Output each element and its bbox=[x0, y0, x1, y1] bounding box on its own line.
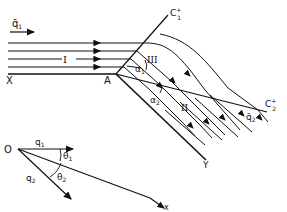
point-a-label: A bbox=[104, 75, 111, 86]
c2-label: C+2 bbox=[265, 97, 276, 112]
expansion-fan-diagram: q̄1 I X A III II Y C+1 C+2 α1 α2 q̄2 O q… bbox=[0, 0, 287, 212]
c2-characteristic-line bbox=[116, 74, 267, 112]
theta1-label: θ1 bbox=[63, 151, 73, 162]
q2-bar-label: q̄2 bbox=[246, 112, 256, 123]
c1-label: C+1 bbox=[170, 6, 181, 21]
region-3-label: III bbox=[147, 55, 158, 65]
q2-vector-label: q2 bbox=[26, 173, 36, 184]
c1-characteristic-line bbox=[116, 15, 168, 74]
point-x-label: X bbox=[6, 75, 13, 86]
x-axis-label: x bbox=[164, 203, 169, 212]
origin-label: O bbox=[4, 144, 12, 155]
q1-bar-label: q̄1 bbox=[12, 18, 22, 30]
velocity-vector-diagram: O q1 q2 θ1 θ2 x bbox=[4, 137, 169, 212]
q1-vector-label: q1 bbox=[35, 137, 45, 148]
theta2-label: θ2 bbox=[57, 172, 67, 183]
region-2-label: II bbox=[181, 103, 189, 113]
region-1-label: I bbox=[63, 54, 67, 65]
region-1-streamlines bbox=[8, 43, 143, 74]
x-axis-line bbox=[18, 149, 150, 198]
alpha2-label: α2 bbox=[150, 95, 160, 106]
expansion-fan-streamlines bbox=[124, 34, 268, 138]
point-y-label: Y bbox=[202, 160, 209, 170]
x-axis-arrow-icon bbox=[150, 198, 164, 208]
alpha1-label: α1 bbox=[135, 64, 145, 75]
theta1-arc-icon bbox=[60, 149, 61, 161]
